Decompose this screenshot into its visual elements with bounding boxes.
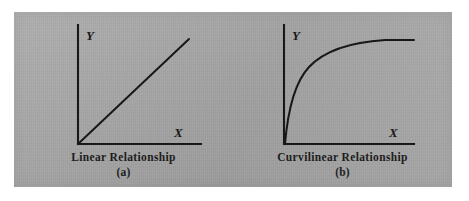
y-axis-label: Y — [86, 28, 95, 43]
figure-background-plate: Y X Linear Relationship (a) Y X — [14, 12, 452, 187]
figure-root: Y X Linear Relationship (a) Y X — [0, 0, 469, 201]
y-axis-label: Y — [292, 28, 301, 43]
panel-linear-relationship: Y X Linear Relationship (a) — [14, 12, 233, 187]
caption-curvilinear: Curvilinear Relationship (b) — [233, 151, 452, 179]
panel-curvilinear-relationship: Y X Curvilinear Relationship (b) — [233, 12, 452, 187]
x-axis-label: X — [173, 125, 183, 140]
caption-linear: Linear Relationship (a) — [14, 151, 233, 179]
caption-title-curvilinear: Curvilinear Relationship — [233, 151, 452, 164]
plot-linear: Y X — [14, 12, 233, 152]
x-axis-label: X — [388, 125, 398, 140]
caption-title-linear: Linear Relationship — [14, 151, 233, 164]
caption-sub-linear: (a) — [14, 166, 233, 179]
linear-data-line — [78, 39, 189, 144]
caption-sub-curvilinear: (b) — [233, 166, 452, 179]
plot-curvilinear: Y X — [233, 12, 452, 152]
